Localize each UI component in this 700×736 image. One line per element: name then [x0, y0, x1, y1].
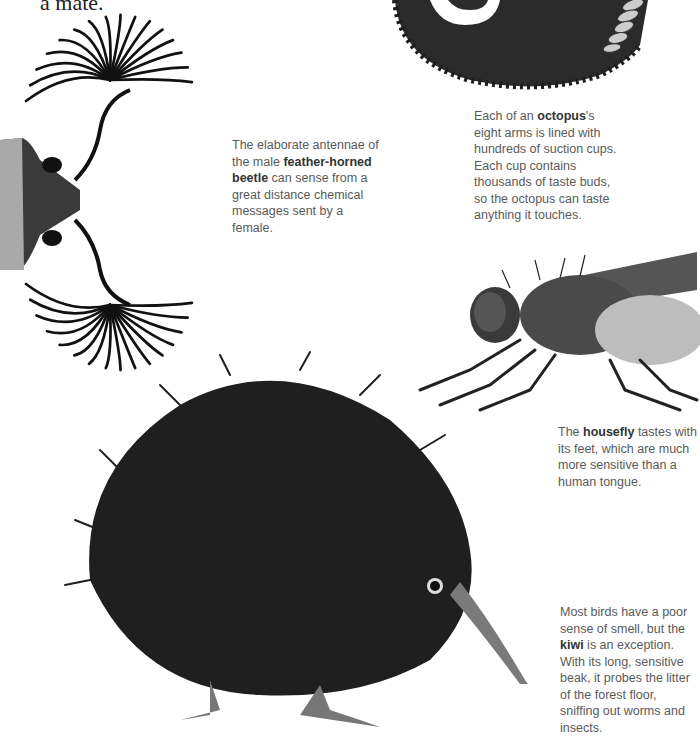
feather-horned-beetle-illustration	[0, 20, 200, 360]
kiwi-name: kiwi	[560, 638, 584, 652]
octopus-caption: Each of an octopus's eight arms is lined…	[474, 108, 624, 224]
housefly-name: housefly	[583, 425, 634, 439]
kiwi-bird-illustration	[60, 350, 540, 727]
housefly-caption: The housefly tastes with its feet, which…	[558, 424, 697, 490]
beetle-caption: The elaborate antennae of the male feath…	[232, 137, 382, 236]
octopus-name: octopus	[537, 109, 586, 123]
kiwi-caption: Most birds have a poor sense of smell, b…	[560, 604, 697, 736]
